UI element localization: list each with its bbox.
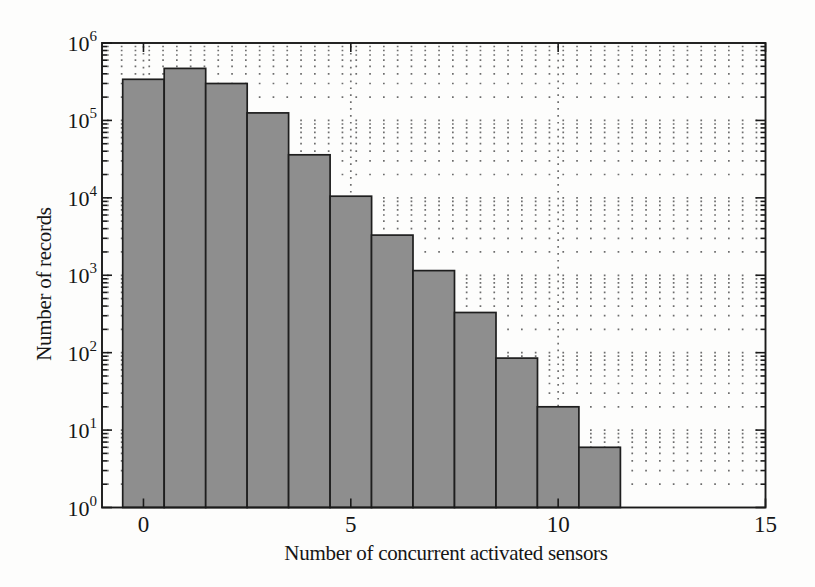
y-tick-label-1e0: 100 <box>68 493 98 521</box>
x-tick-label-5: 5 <box>345 512 357 537</box>
y-tick-label-1e1: 101 <box>68 415 98 443</box>
bar-x2 <box>206 84 248 508</box>
bar-x0 <box>123 79 165 507</box>
bar-x4 <box>289 155 331 508</box>
bar-x3 <box>247 113 289 508</box>
chart-svg: 051015100101102103104105106 <box>0 0 815 587</box>
bar-x10 <box>537 407 579 508</box>
bar-x6 <box>372 235 414 507</box>
bar-x1 <box>164 68 206 507</box>
y-tick-labels: 100101102103104105106 <box>68 28 98 521</box>
y-tick-label-1e6: 106 <box>68 28 98 56</box>
y-tick-label-1e2: 102 <box>68 338 98 366</box>
y-tick-label-1e5: 105 <box>68 105 98 133</box>
y-tick-label-1e4: 104 <box>68 183 98 211</box>
x-axis-title: Number of concurrent activated sensors <box>114 541 778 566</box>
bar-x11 <box>579 447 621 507</box>
x-tick-label-0: 0 <box>138 512 150 537</box>
bars <box>123 68 621 507</box>
x-tick-label-10: 10 <box>547 512 570 537</box>
y-axis-title: Number of records <box>32 184 58 384</box>
bar-x8 <box>455 313 497 508</box>
x-tick-label-15: 15 <box>754 512 777 537</box>
x-tick-labels: 051015 <box>138 512 777 537</box>
y-tick-label-1e3: 103 <box>68 260 98 288</box>
histogram-figure: 051015100101102103104105106 Number of co… <box>0 0 815 587</box>
bar-x7 <box>413 271 455 508</box>
bar-x9 <box>496 358 538 507</box>
bar-x5 <box>330 196 372 507</box>
